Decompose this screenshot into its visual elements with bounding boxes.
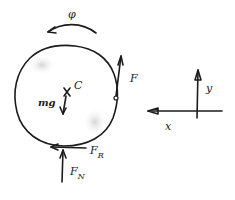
center-label: C [74,79,83,92]
diagram-canvas: φ F C mg FR FN y x [0,0,235,200]
force-f-label: F [129,72,138,85]
center-mark-icon [64,88,70,96]
rotation-label: φ [68,8,76,21]
force-fr-label: FR [89,144,104,160]
rotation-arrowhead-icon [48,27,56,33]
force-mg-label: mg [38,97,56,108]
free-body-diagram: φ F C mg FR FN y x [0,0,235,200]
shading-upper-left [28,55,56,75]
x-axis-label: x [165,120,172,133]
force-fn-label: FN [69,165,86,181]
rotation-arrow-icon [48,25,96,33]
force-fn-arrow-icon [62,150,63,182]
force-fr-arrow-icon [51,147,86,148]
y-axis-label: y [205,82,213,95]
